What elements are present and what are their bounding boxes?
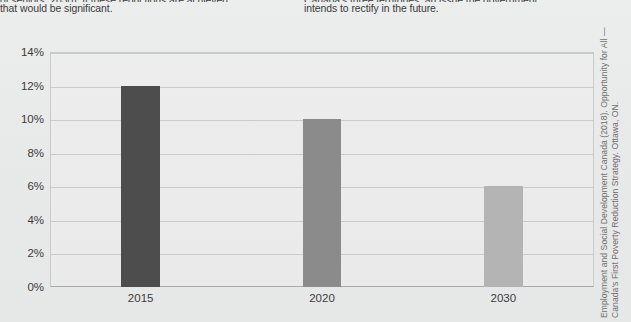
y-tick-0%: 0% [27, 281, 44, 293]
source-credit: Employment and Social Development Canada… [599, 0, 629, 322]
y-tick-12%: 12% [21, 80, 44, 92]
right-column-clipped-line: Canada's three territories, an issue the… [304, 0, 586, 2]
x-tick-2015: 2015 [128, 292, 154, 304]
y-tick-2%: 2% [27, 247, 44, 259]
bar-2030[interactable] [484, 186, 523, 287]
chart-bars [50, 52, 594, 287]
x-tick-2020: 2020 [309, 292, 335, 304]
y-tick-10%: 10% [21, 113, 44, 125]
left-column-line-2: that would be significant. [0, 3, 282, 16]
y-tick-6%: 6% [27, 180, 44, 192]
bar-2020[interactable] [303, 119, 342, 287]
x-axis-tick-labels: 201520202030 [50, 292, 594, 312]
body-text-columns: of seniors, 2030). If these reductions a… [0, 0, 586, 30]
x-tick-2030: 2030 [491, 292, 517, 304]
y-tick-8%: 8% [27, 147, 44, 159]
source-credit-text: Employment and Social Development Canada… [599, 0, 621, 318]
body-text-right-column: Canada's three territories, an issue the… [304, 0, 586, 30]
left-column-clipped-line: of seniors, 2030). If these reductions a… [0, 0, 282, 2]
right-column-line-2: intends to rectify in the future. [304, 3, 586, 16]
y-tick-14%: 14% [21, 46, 44, 58]
bar-2015[interactable] [121, 86, 160, 287]
body-text-left-column: of seniors, 2030). If these reductions a… [0, 0, 282, 30]
y-axis-tick-labels: 0%2%4%6%8%10%12%14% [0, 52, 44, 287]
bar-chart: 0%2%4%6%8%10%12%14% 201520202030 [0, 36, 600, 322]
y-tick-4%: 4% [27, 214, 44, 226]
